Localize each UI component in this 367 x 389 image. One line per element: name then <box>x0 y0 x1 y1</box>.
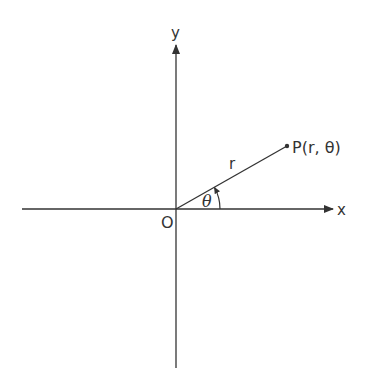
angle-label: θ <box>202 192 212 211</box>
origin-label: O <box>161 213 174 232</box>
y-axis-label: y <box>171 24 180 42</box>
radius-label: r <box>229 155 236 173</box>
polar-coordinate-diagram: y x O P(r, θ) r θ <box>0 0 367 389</box>
point-label: P(r, θ) <box>292 138 341 157</box>
x-axis-label: x <box>337 201 346 219</box>
point-p <box>285 144 289 148</box>
angle-arc <box>215 188 221 210</box>
